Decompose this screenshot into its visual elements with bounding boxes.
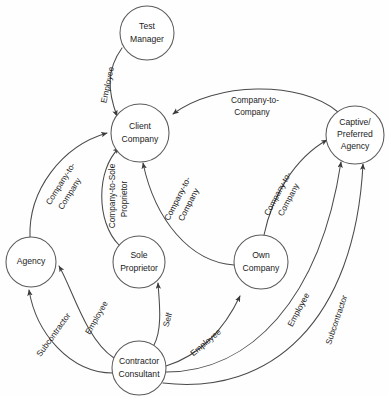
edge-path-self-sole-proprietor [154, 283, 160, 345]
node-label-contractor-consultant-line1: Contractor [119, 356, 159, 366]
node-label-captive-line1: Captive/ [339, 117, 371, 127]
node-circle-client-company[interactable] [111, 104, 169, 162]
relationship-diagram: Employee Company-to- Company Company-to-… [0, 0, 389, 397]
node-circle-sole-proprietor[interactable] [113, 236, 165, 288]
node-label-client-company-line2: Company [122, 134, 159, 144]
edge-contractor-to-agency-employee: Employee [59, 266, 114, 358]
node-contractor-consultant[interactable]: Contractor Consultant [112, 341, 166, 395]
node-label-sole-proprietor-line1: Sole [130, 250, 147, 260]
edge-own-company-to-captive-agency: Company-to- Company [262, 140, 327, 235]
edge-label-company-to-company-captive-l2: Company [234, 107, 270, 117]
edge-label-employee-test-manager: Employee [98, 65, 116, 104]
node-agency[interactable]: Agency [6, 237, 56, 287]
node-label-contractor-consultant-line2: Consultant [118, 369, 160, 379]
node-label-own-company-line2: Company [243, 263, 280, 273]
node-label-test-manager-line1: Test [139, 21, 155, 31]
node-label-captive-line3: Agency [341, 141, 370, 151]
node-label-agency: Agency [17, 256, 46, 266]
edge-contractor-to-sole-proprietor: Self [154, 283, 174, 345]
edge-agency-to-client-company: Company-to- Company [30, 133, 107, 238]
edge-label-employee-own-company: Employee [188, 326, 223, 358]
edge-test-manager-to-client-company: Employee [98, 48, 122, 116]
edge-captive-agency-to-client-company: Company-to- Company [173, 89, 338, 117]
edge-contractor-to-own-company: Employee [166, 296, 240, 366]
node-circle-contractor-consultant[interactable] [112, 341, 166, 395]
node-label-own-company-line1: Own [252, 250, 270, 260]
edge-path-employee-own-company [166, 296, 240, 366]
edge-label-subcontractor-agency: Subcontractor [34, 310, 73, 358]
node-captive-preferred-agency[interactable]: Captive/ Preferred Agency [326, 106, 384, 164]
edge-label-employee-agency: Employee [83, 299, 110, 336]
edge-label-company-to-company-captive-l1: Company-to- [231, 95, 279, 105]
node-label-client-company-line1: Client [129, 121, 152, 131]
node-circle-test-manager[interactable] [120, 6, 174, 60]
node-label-sole-proprietor-line2: Proprietor [120, 263, 158, 273]
edge-label-self-sole-proprietor: Self [160, 311, 174, 328]
node-circle-own-company[interactable] [234, 235, 288, 289]
node-sole-proprietor[interactable]: Sole Proprietor [113, 236, 165, 288]
edge-sole-proprietor-to-client-company: Company-to-Sole Proprietor [102, 148, 129, 245]
edge-label-company-to-sole-proprietor-l1: Company-to-Sole [107, 163, 117, 228]
node-own-company[interactable]: Own Company [234, 235, 288, 289]
node-label-test-manager-line2: Manager [130, 34, 164, 44]
node-test-manager[interactable]: Test Manager [120, 6, 174, 60]
edge-label-employee-captive-agency: Employee [285, 291, 311, 329]
edge-label-company-to-sole-proprietor-l2: Proprietor [119, 181, 129, 218]
diagram-canvas: Employee Company-to- Company Company-to-… [0, 0, 389, 397]
node-label-captive-line2: Preferred [337, 129, 373, 139]
node-client-company[interactable]: Client Company [111, 104, 169, 162]
edge-path-employee-agency [59, 266, 114, 358]
